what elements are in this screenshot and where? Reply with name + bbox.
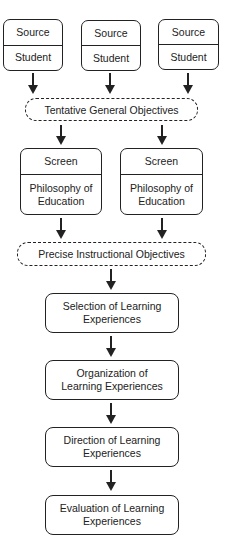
evaluation-step: Evaluation of Learning Experiences xyxy=(45,495,179,535)
student-label: Student xyxy=(82,46,140,70)
arrow-down-icon xyxy=(56,218,66,239)
precise-objectives: Precise Instructional Objectives xyxy=(17,242,206,266)
arrow-down-icon xyxy=(105,73,115,94)
selection-step: Selection of Learning Experiences xyxy=(45,293,179,333)
arrow-down-icon xyxy=(183,73,193,94)
screen-box-2: Screen Philosophy of Education xyxy=(120,148,203,215)
source-label: Source xyxy=(4,20,62,46)
student-label: Student xyxy=(4,46,62,71)
arrow-down-icon xyxy=(106,336,116,357)
arrow-down-icon xyxy=(106,470,116,491)
tentative-objectives: Tentative General Objectives xyxy=(25,98,198,121)
screen-box-1: Screen Philosophy of Education xyxy=(20,148,102,215)
source-label: Source xyxy=(82,21,140,46)
source-box-2: Source Student xyxy=(81,20,141,71)
screen-label: Screen xyxy=(21,149,101,175)
arrow-down-icon xyxy=(157,125,167,145)
source-box-3: Source Student xyxy=(158,19,219,70)
student-label: Student xyxy=(159,45,218,69)
arrow-down-icon xyxy=(28,73,38,94)
arrow-down-icon xyxy=(106,269,116,290)
arrow-down-icon xyxy=(106,403,116,424)
source-label: Source xyxy=(159,20,218,45)
source-box-1: Source Student xyxy=(3,19,63,71)
direction-step: Direction of Learning Experiences xyxy=(45,427,179,467)
organization-step: Organization of Learning Experiences xyxy=(45,360,179,400)
philosophy-label: Philosophy of Education xyxy=(121,175,202,214)
arrow-down-icon xyxy=(157,218,167,239)
screen-label: Screen xyxy=(121,149,202,175)
philosophy-label: Philosophy of Education xyxy=(21,175,101,214)
arrow-down-icon xyxy=(56,125,66,145)
